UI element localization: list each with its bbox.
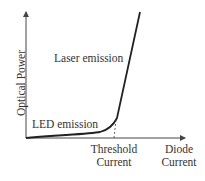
diode-current-label: Diode Current [158, 143, 200, 169]
led-emission-label: LED emission [32, 118, 98, 130]
y-axis-label: Optical Power [15, 48, 27, 118]
threshold-current-label: Threshold Current [88, 143, 140, 169]
diode-label-line1: Diode [158, 143, 200, 156]
laser-emission-label: Laser emission [54, 52, 123, 64]
threshold-label-line1: Threshold [88, 143, 140, 156]
threshold-label-line2: Current [88, 156, 140, 169]
diode-label-line2: Current [158, 156, 200, 169]
